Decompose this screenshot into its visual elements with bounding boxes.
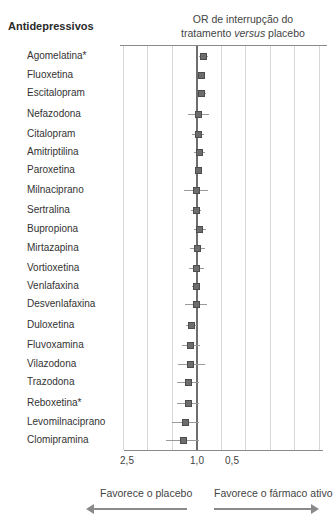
odds-ratio-marker	[195, 167, 202, 174]
odds-ratio-marker	[187, 342, 194, 349]
gridline	[294, 46, 295, 450]
x-axis-line	[124, 450, 323, 451]
drug-label: Venlafaxina	[27, 280, 79, 292]
drug-label: Sertralina	[27, 204, 70, 216]
odds-ratio-marker	[196, 226, 203, 233]
odds-ratio-marker	[194, 245, 201, 252]
drug-label: Nefazodona	[27, 108, 81, 120]
odds-ratio-marker	[185, 379, 192, 386]
x-tick-label: 0,5	[225, 455, 239, 466]
gridline	[221, 46, 222, 450]
drug-label: Escitalopram	[27, 87, 85, 99]
gridline	[270, 46, 271, 450]
odds-ratio-marker	[188, 322, 195, 329]
arrow-right-icon	[311, 504, 319, 514]
odds-ratio-marker	[195, 131, 202, 138]
chart-title: OR de interrupção do tratamento versus p…	[150, 12, 336, 40]
drug-label: Clomipramina	[27, 434, 89, 446]
odds-ratio-marker	[187, 361, 194, 368]
drug-label: Vortioxetina	[27, 262, 79, 274]
odds-ratio-marker	[185, 400, 192, 407]
drug-label: Desvenlafaxina	[27, 298, 95, 310]
chart-title-line2: tratamento versus placebo	[150, 26, 336, 40]
drug-label: Fluvoxamina	[27, 339, 84, 351]
drug-label: Citalopram	[27, 128, 75, 140]
odds-ratio-marker	[198, 90, 205, 97]
arrow-left-shaft	[92, 508, 187, 510]
favors-drug-label: Favorece o fármaco ativo	[214, 487, 332, 499]
drug-label: Reboxetina*	[27, 397, 81, 409]
chart-title-line1: OR de interrupção do	[150, 12, 336, 26]
odds-ratio-marker	[193, 265, 200, 272]
gridline	[147, 46, 148, 450]
x-tick-label: 2,5	[120, 455, 134, 466]
drug-label: Trazodona	[27, 376, 74, 388]
drug-label: Mirtazapina	[27, 242, 79, 254]
favors-placebo-label: Favorece o placebo	[100, 487, 192, 499]
drug-label: Levomilnaciprano	[27, 416, 105, 428]
plot-top-border	[120, 45, 327, 46]
drug-label: Paroxetina	[27, 164, 75, 176]
odds-ratio-marker	[200, 53, 207, 60]
drug-label: Vilazodona	[27, 358, 76, 370]
drug-label: Amitriptilina	[27, 146, 79, 158]
gridline	[245, 46, 246, 450]
odds-ratio-marker	[193, 207, 200, 214]
odds-ratio-marker	[182, 419, 189, 426]
gridline	[172, 46, 173, 450]
drug-label: Milnaciprano	[27, 184, 84, 196]
x-tick-label: 1,0	[190, 455, 204, 466]
odds-ratio-marker	[193, 283, 200, 290]
y-axis-heading: Antidepressivos	[8, 20, 94, 32]
drug-label: Fluoxetina	[27, 69, 73, 81]
odds-ratio-marker	[196, 149, 203, 156]
odds-ratio-marker	[195, 111, 202, 118]
gridline	[123, 46, 124, 450]
arrow-right-shaft	[214, 508, 312, 510]
gridline	[319, 46, 320, 450]
odds-ratio-marker	[193, 187, 200, 194]
drug-label: Agomelatina*	[27, 50, 86, 62]
odds-ratio-marker	[198, 72, 205, 79]
drug-label: Bupropiona	[27, 223, 78, 235]
odds-ratio-marker	[193, 301, 200, 308]
odds-ratio-marker	[180, 437, 187, 444]
drug-label: Duloxetina	[27, 319, 74, 331]
